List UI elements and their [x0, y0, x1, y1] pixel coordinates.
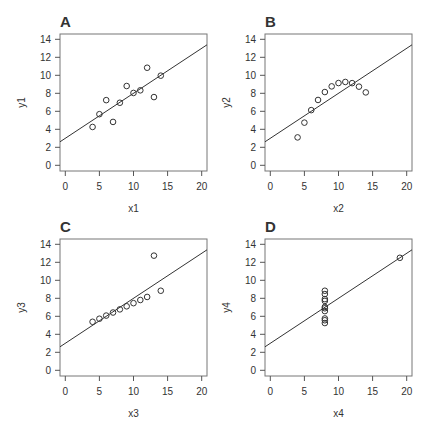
data-point	[295, 135, 301, 141]
x-tick-label: 10	[128, 386, 140, 397]
y-tick-label: 14	[245, 34, 257, 45]
panel-label: B	[265, 13, 276, 30]
y-tick-label: 8	[250, 293, 256, 304]
data-point	[329, 84, 335, 90]
y-tick-label: 14	[245, 239, 257, 250]
x-tick-label: 0	[268, 181, 274, 192]
y-tick-label: 0	[250, 160, 256, 171]
x-tick-label: 15	[367, 181, 379, 192]
y-axis-label: y1	[16, 97, 27, 108]
y-tick-label: 8	[45, 88, 51, 99]
y-tick-label: 14	[40, 239, 52, 250]
regression-line	[263, 39, 420, 143]
data-point	[131, 300, 137, 306]
scatter-panel-a: A0246810121405101520x1y1	[0, 0, 213, 215]
y-tick-label: 0	[250, 365, 256, 376]
data-point	[151, 253, 157, 259]
x-tick-label: 5	[97, 181, 103, 192]
y-tick-label: 4	[45, 329, 51, 340]
y-tick-label: 10	[245, 275, 257, 286]
y-tick-label: 4	[45, 124, 51, 135]
y-tick-label: 2	[45, 347, 51, 358]
y-axis-label: y2	[221, 97, 232, 108]
y-tick-label: 4	[250, 329, 256, 340]
anscombe-quartet-figure: A0246810121405101520x1y1 B02468101214051…	[0, 0, 426, 431]
plot-area	[60, 239, 207, 376]
x-tick-label: 10	[333, 386, 345, 397]
scatter-panel-c: C0246810121405101520x3y3	[0, 205, 213, 431]
y-tick-label: 2	[250, 347, 256, 358]
y-tick-label: 10	[245, 70, 257, 81]
x-tick-label: 15	[162, 386, 174, 397]
y-tick-label: 4	[250, 124, 256, 135]
data-point	[151, 94, 157, 100]
data-point	[124, 304, 130, 310]
plot-area	[265, 34, 412, 171]
data-point	[336, 80, 342, 86]
data-point	[322, 89, 328, 95]
data-point	[158, 288, 164, 294]
scatter-panel-b: B0246810121405101520x2y2	[205, 0, 426, 215]
data-point	[138, 297, 144, 303]
data-point	[144, 294, 150, 300]
regression-line	[263, 244, 420, 347]
y-tick-label: 0	[45, 365, 51, 376]
data-point	[315, 97, 321, 103]
plot-area	[60, 34, 207, 171]
y-tick-label: 6	[45, 106, 51, 117]
x-tick-label: 10	[333, 181, 345, 192]
x-axis-label: x3	[128, 408, 139, 419]
x-tick-label: 10	[128, 181, 140, 192]
x-tick-label: 15	[162, 181, 174, 192]
data-point	[144, 65, 150, 71]
x-tick-label: 5	[302, 181, 308, 192]
y-tick-label: 6	[250, 106, 256, 117]
x-tick-label: 5	[97, 386, 103, 397]
panel-label: C	[60, 218, 71, 235]
regression-line	[58, 244, 213, 347]
y-tick-label: 6	[45, 311, 51, 322]
data-point	[343, 79, 349, 85]
y-tick-label: 12	[40, 257, 52, 268]
y-axis-label: y3	[16, 302, 27, 313]
y-tick-label: 12	[245, 52, 257, 63]
x-axis-label: x4	[333, 408, 344, 419]
data-point	[302, 120, 308, 126]
data-point	[90, 319, 96, 325]
data-point	[356, 84, 362, 90]
y-tick-label: 8	[45, 293, 51, 304]
panel-label: D	[265, 218, 276, 235]
y-tick-label: 12	[40, 52, 52, 63]
y-axis-label: y4	[221, 302, 232, 313]
y-tick-label: 12	[245, 257, 257, 268]
data-point	[363, 90, 369, 96]
data-point	[90, 124, 96, 130]
y-tick-label: 8	[250, 88, 256, 99]
x-tick-label: 5	[302, 386, 308, 397]
y-tick-label: 6	[250, 311, 256, 322]
data-point	[103, 97, 109, 103]
x-tick-label: 0	[268, 386, 274, 397]
x-tick-label: 15	[367, 386, 379, 397]
y-tick-label: 2	[45, 142, 51, 153]
data-point	[124, 83, 130, 89]
panel-label: A	[60, 13, 71, 30]
y-tick-label: 0	[45, 160, 51, 171]
x-tick-label: 0	[63, 181, 69, 192]
y-tick-label: 10	[40, 70, 52, 81]
scatter-panel-d: D0246810121405101520x4y4	[205, 205, 426, 431]
data-point	[110, 119, 116, 125]
x-tick-label: 20	[401, 386, 413, 397]
plot-area	[265, 239, 412, 376]
x-tick-label: 0	[63, 386, 69, 397]
y-tick-label: 14	[40, 34, 52, 45]
x-tick-label: 20	[401, 181, 413, 192]
y-tick-label: 2	[250, 142, 256, 153]
y-tick-label: 10	[40, 275, 52, 286]
